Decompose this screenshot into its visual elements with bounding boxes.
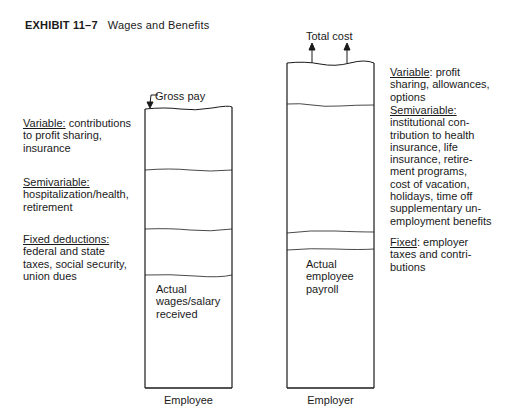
- label-heading: Variable: [390, 66, 430, 78]
- label-body: institutional con- tribution to health i…: [390, 116, 492, 226]
- employee-actual-wages-label: Actual wages/salary received: [156, 283, 220, 320]
- employer-box: [287, 61, 374, 388]
- gross-pay-label: Gross pay: [155, 90, 205, 102]
- employee-caption: Employee: [145, 394, 232, 406]
- employee-variable-label: Variable: contributions to profit sharin…: [23, 117, 148, 154]
- employee-fixed-label: Fixed deductions: federal and state taxe…: [23, 233, 148, 282]
- employer-fixed-label: Fixed: employer taxes and contri- bution…: [390, 236, 471, 273]
- employer-variable-label: Variable: profit sharing, allowances, op…: [390, 66, 490, 103]
- employee-semivariable-label: Semivariable: hospitalization/health, re…: [23, 176, 148, 213]
- employee-box: [145, 106, 232, 388]
- label-body: federal and state taxes, social security…: [23, 245, 127, 282]
- total-cost-arrows-icon: [309, 43, 350, 63]
- label-heading: Fixed deductions:: [23, 233, 109, 245]
- employer-actual-payroll-label: Actual employee payroll: [306, 258, 354, 295]
- label-heading: Semivariable:: [23, 176, 90, 188]
- label-body: hospitalization/health, retirement: [23, 188, 129, 212]
- label-heading: Fixed: [390, 236, 417, 248]
- employer-caption: Employer: [287, 394, 374, 406]
- label-heading: Semivariable:: [390, 104, 457, 116]
- label-heading: Variable:: [23, 117, 66, 129]
- total-cost-label: Total cost: [306, 30, 352, 42]
- employer-semivariable-label: Semivariable: institutional con- tributi…: [390, 104, 492, 227]
